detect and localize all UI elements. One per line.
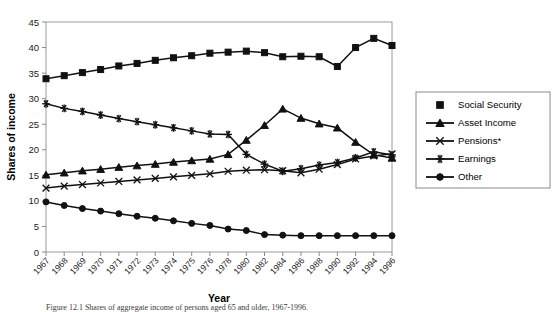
data-point [116,63,122,69]
x-tick-label: 1974 [159,255,180,276]
data-point [262,50,268,56]
y-tick-label: 15 [28,170,39,181]
data-point [79,108,87,116]
y-tick-label: 10 [28,195,39,206]
data-point [353,233,359,239]
legend-label: Other [458,171,483,182]
y-tick-label: 5 [34,221,39,232]
series-line [46,109,392,175]
data-point [115,115,123,123]
data-point [79,70,85,76]
x-tick-label: 1980 [231,255,252,276]
legend-label: Asset Income [458,117,516,128]
data-point [316,54,322,60]
x-tick-label: 1972 [122,255,143,276]
y-axis-title: Shares of income [5,93,17,181]
x-tick-label: 1996 [377,255,398,276]
data-point [298,233,304,239]
x-tick-label: 1976 [195,255,216,276]
series-earnings [42,100,396,175]
data-point [152,215,158,221]
x-tick-label: 1978 [213,255,234,276]
data-point [61,202,67,208]
legend-label: Pensions* [458,135,501,146]
plot-frame [46,22,392,252]
data-point [207,222,213,228]
caption-label: Figure 12.1 Shares of aggregate income o… [46,303,308,312]
data-point [334,63,340,69]
data-point [243,228,249,234]
data-point [279,105,287,112]
y-tick-label: 30 [28,93,39,104]
series-social-security [43,35,395,81]
data-point [389,233,395,239]
data-point [43,199,49,205]
x-tick-label: 1971 [104,255,125,276]
data-point [297,165,305,173]
x-tick-label: 1973 [140,255,161,276]
data-point [42,100,50,108]
series-asset-income [42,105,396,178]
y-tick-label: 35 [28,68,39,79]
data-point [98,67,104,73]
y-tick-label: 20 [28,144,39,155]
data-point [133,118,141,126]
y-tick-label: 40 [28,42,39,53]
data-point [353,45,359,51]
x-tick-label: 1968 [49,255,70,276]
data-point [334,233,340,239]
data-point [170,55,176,61]
series-line [46,202,392,236]
data-point [297,114,305,121]
line-chart: 0510152025303540451967196819691970197119… [0,0,558,312]
data-point [243,48,249,54]
data-point [206,130,214,138]
data-point [371,35,377,41]
data-point [262,232,268,238]
data-point [207,50,213,56]
series-line [46,104,392,171]
x-tick-label: 1990 [322,255,343,276]
data-point [225,49,231,55]
data-point [280,232,286,238]
data-point [280,54,286,60]
x-tick-label: 1982 [250,255,271,276]
x-tick-label: 1988 [304,255,325,276]
figure-container: 0510152025303540451967196819691970197119… [0,0,558,312]
data-point [188,127,196,135]
data-point [352,154,360,162]
data-point [298,53,304,59]
data-point [116,211,122,217]
data-point [371,233,377,239]
x-tick-label: 1970 [86,255,107,276]
x-tick-label: 1984 [268,255,289,276]
data-point [61,73,67,79]
data-point [189,53,195,59]
data-point [98,208,104,214]
chart-legend: Social SecurityAsset IncomePensions*Earn… [416,92,550,188]
x-tick-label: 1986 [286,255,307,276]
data-point [134,213,140,219]
data-point [152,57,158,63]
series-other [43,199,395,239]
legend-label: Earnings [458,153,496,164]
x-tick-label: 1975 [177,255,198,276]
x-tick-label: 1992 [341,255,362,276]
data-point [43,76,49,82]
data-point [389,43,395,49]
data-point [370,148,378,156]
square-marker [437,102,444,109]
y-tick-label: 0 [34,247,39,258]
legend-item-asset-income[interactable]: Asset Income [426,117,516,128]
x-tick-label: 1967 [31,255,52,276]
series-group [42,35,396,238]
data-point [151,121,159,129]
figure-caption: Figure 12.1 Shares of aggregate income o… [46,303,308,312]
x-tick-label: 1994 [359,255,380,276]
data-point [316,233,322,239]
data-point [79,206,85,212]
data-point [134,60,140,66]
data-point [97,111,105,119]
data-point [170,218,176,224]
circle-marker [437,174,444,181]
